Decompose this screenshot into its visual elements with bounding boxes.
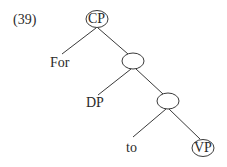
cp-node-label: CP [88,12,105,26]
leaf-to: to [126,141,137,155]
edge-n2-to [133,109,166,137]
vp-node-label: VP [194,141,212,155]
intermediate-node-circle-2 [157,93,179,109]
edge-n1-n2 [136,69,163,94]
leaf-for: For [50,56,69,70]
example-number: (39) [13,13,36,27]
intermediate-node-circle-1 [122,53,144,69]
edge-n2-vp [169,109,200,139]
leaf-dp: DP [86,96,104,110]
edge-cp-for [62,28,96,54]
edge-cp-n1 [98,28,128,54]
edge-n1-dp [98,69,131,95]
